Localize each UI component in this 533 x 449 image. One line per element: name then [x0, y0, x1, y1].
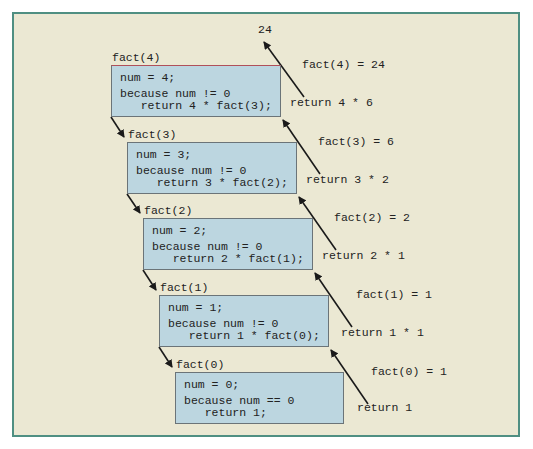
return-expr: return 1: [357, 401, 412, 414]
frame-line: num = 0;: [184, 378, 239, 391]
return-expr: return 1 * 1: [341, 326, 424, 339]
returns-label: fact(0) = 1: [371, 365, 447, 378]
returns-label: fact(3) = 6: [318, 135, 394, 148]
frame-title: fact(2): [144, 205, 192, 217]
call-frame-fact1: num = 1; because num != 0 return 1 * fac…: [159, 295, 329, 347]
frame-title: fact(4): [112, 52, 160, 64]
frame-line: num = 2;: [152, 224, 207, 237]
final-result: 24: [258, 24, 272, 36]
frame-title: fact(3): [128, 129, 176, 141]
call-frame-fact0: num = 0; because num == 0 return 1;: [175, 372, 344, 424]
return-expr: return 4 * 6: [290, 96, 373, 109]
return-expr: return 3 * 2: [306, 173, 389, 186]
frame-line: return 1;: [184, 406, 267, 419]
frame-title: fact(1): [160, 282, 208, 294]
frame-line: num = 4;: [120, 71, 175, 84]
frame-line: return 4 * fact(3);: [120, 99, 272, 112]
returns-label: fact(2) = 2: [334, 211, 410, 224]
returns-label: fact(4) = 24: [302, 58, 385, 71]
call-frame-fact2: num = 2; because num != 0 return 2 * fac…: [143, 218, 313, 270]
frame-line: num = 3;: [136, 148, 191, 161]
returns-label: fact(1) = 1: [356, 288, 432, 301]
call-frame-fact4: num = 4; because num != 0 return 4 * fac…: [111, 65, 281, 117]
return-expr: return 2 * 1: [322, 249, 405, 262]
frame-line: num = 1;: [168, 301, 223, 314]
frame-title: fact(0): [176, 359, 224, 371]
frame-line: return 1 * fact(0);: [168, 329, 320, 342]
call-frame-fact3: num = 3; because num != 0 return 3 * fac…: [127, 142, 297, 194]
frame-line: return 2 * fact(1);: [152, 252, 304, 265]
frame-line: return 3 * fact(2);: [136, 176, 288, 189]
